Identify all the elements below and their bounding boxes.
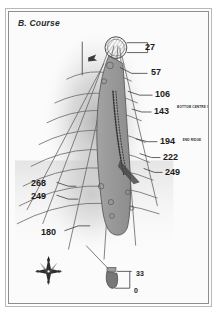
label-value-249-left: 249	[31, 192, 46, 201]
inner-frame-border: B. Course	[8, 11, 209, 304]
label-value-143: 143	[154, 107, 169, 116]
label-value-194: 194	[160, 137, 175, 146]
course-plan-diagram	[9, 12, 208, 302]
north-arrow-icon	[35, 256, 63, 285]
scale-label-33: 33	[136, 270, 144, 277]
scale-marker-body	[106, 271, 117, 288]
label-value-27: 27	[145, 43, 155, 52]
figure-page: B. Course	[0, 0, 217, 321]
label-value-249: 249	[165, 168, 180, 177]
label-value-268: 268	[31, 179, 46, 188]
scale-label-0: 0	[134, 287, 138, 294]
scale-marker-cap	[107, 267, 116, 271]
label-value-106: 106	[155, 90, 170, 99]
annotation-end-ridge: END RIDGE	[181, 139, 203, 143]
annotation-bottom-centre-slope: BOTTOM CENTRE SLOPE	[177, 106, 203, 110]
label-value-180: 180	[41, 228, 56, 237]
label-value-222: 222	[163, 153, 178, 162]
course-head-ellipse	[105, 37, 127, 59]
lower-haze	[15, 161, 173, 260]
label-value-57: 57	[151, 68, 161, 77]
